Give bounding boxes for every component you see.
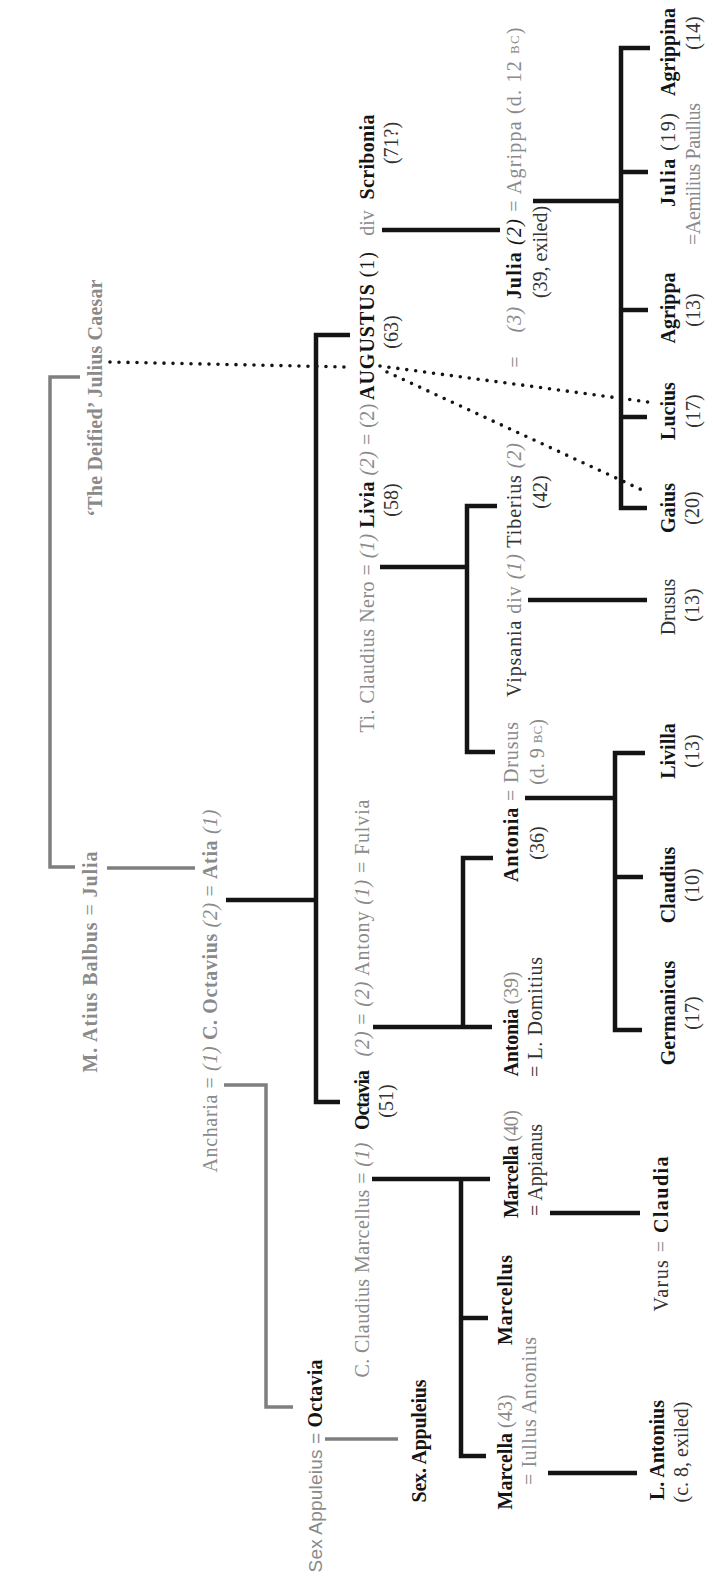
drusus-elder-death: (d. 9 BC) bbox=[526, 719, 549, 785]
antonia-minor-name: Antonia bbox=[500, 808, 522, 882]
death-note: (d. 9 bbox=[526, 748, 549, 785]
julia-younger-label: Julia (19) bbox=[657, 113, 680, 207]
appuleius-octavia-marriage: Sex Appuleius = Octavia bbox=[304, 1360, 326, 1573]
caesar-julia-sibling-bracket bbox=[50, 377, 80, 867]
marriage-order: (2) bbox=[356, 404, 379, 428]
drusus-younger-age: (13) bbox=[681, 588, 704, 621]
marriage-order: (2) bbox=[503, 219, 526, 245]
marriage-symbol: = bbox=[356, 564, 378, 575]
julia-note: (39, exiled) bbox=[529, 206, 552, 298]
gaius-name: Gaius bbox=[657, 483, 679, 533]
octavius-ancharia-to-octavia-elder-line bbox=[224, 1085, 293, 1407]
marriage-order: (2) bbox=[351, 1031, 374, 1056]
marcella-minor-spouse: = Iullus Antonius bbox=[518, 1337, 540, 1485]
octavius-marriages: Ancharia = (1) C. Octavius (2) = Atia (1… bbox=[199, 809, 222, 1172]
scribonia-age: (71?) bbox=[380, 122, 403, 164]
augustus-name: AUGUSTUS bbox=[356, 284, 378, 400]
livia-children-bracket bbox=[467, 506, 497, 752]
adoption-lines bbox=[110, 362, 648, 490]
antonia-major-name: Antonia bbox=[500, 1009, 522, 1077]
antonia-drusus-marriage: Antonia = Drusus bbox=[500, 722, 522, 882]
marriage-symbol: = bbox=[199, 1077, 221, 1088]
marriage-symbol: = bbox=[351, 1013, 373, 1024]
l-antonius-note: (c. 8, exiled) bbox=[670, 1401, 693, 1502]
atia-name: Atia bbox=[199, 840, 221, 879]
drusus-younger-name: Drusus bbox=[657, 578, 679, 635]
agrippa-postumus-name: Agrippa bbox=[657, 272, 680, 343]
antony-children-bracket bbox=[463, 858, 493, 1027]
marcella-major-name: Marcella bbox=[500, 1146, 522, 1218]
tiberius-age: (42) bbox=[529, 475, 552, 508]
antonia-minor-children-bracket bbox=[615, 753, 645, 1030]
tiberius-name: Tiberius bbox=[503, 475, 525, 548]
germanicus-age: (17) bbox=[681, 996, 704, 1029]
marcella-major-label: Marcella (40) bbox=[500, 1110, 523, 1218]
julia-younger-spouse: =Aemilius Paullus bbox=[682, 103, 704, 245]
augustus-octavia-sibling-bracket bbox=[316, 335, 350, 1102]
caesar-to-augustus-adoption-line bbox=[110, 362, 347, 367]
agrippina-name: Agrippina bbox=[657, 8, 680, 96]
augustus-to-lucius-adoption-line bbox=[380, 366, 648, 402]
julia-younger-name: Julia bbox=[657, 159, 679, 207]
antonia-major-spouse: = L. Domitius bbox=[524, 957, 546, 1077]
antonia-major-label: Antonia (39) bbox=[500, 972, 523, 1077]
antonia-minor-age: (36) bbox=[526, 826, 549, 859]
julia-children-bracket bbox=[621, 48, 650, 508]
tiberius-julia-marriage-symbol: = bbox=[504, 356, 526, 367]
julia-name: Julia bbox=[503, 252, 525, 299]
antonia-major-age: (39) bbox=[500, 972, 523, 1005]
marriage-order: (1) bbox=[199, 809, 222, 834]
era-label: BC bbox=[530, 726, 545, 743]
varus-name: Varus bbox=[650, 1260, 672, 1312]
gray-connectors bbox=[50, 377, 398, 1439]
augustus-label: AUGUSTUS (1) bbox=[356, 252, 379, 400]
paren-close: ) bbox=[526, 719, 549, 726]
marcella-major-spouse: = Appianus bbox=[524, 1124, 547, 1216]
marriage-order: (1) bbox=[351, 1142, 374, 1167]
livia-age: (58) bbox=[380, 483, 403, 516]
scribonia-name: Scribonia bbox=[356, 115, 378, 200]
marriage-symbol: = bbox=[79, 904, 101, 915]
vipsania-name: Vipsania bbox=[503, 620, 526, 697]
agrippina-age: (14) bbox=[682, 16, 705, 49]
livia-name: Livia bbox=[356, 481, 378, 527]
antony-name: Antony bbox=[351, 912, 374, 976]
julia-agrippa-marriage: (3) Julia (2) = Agrippa (d. 12 BC) bbox=[503, 28, 526, 333]
drusus-elder-name: Drusus bbox=[500, 722, 522, 783]
antony-fulvia-marriages: (2) = (2) Antony (1) = Fulvia bbox=[351, 799, 374, 1056]
l-antonius-name: L. Antonius bbox=[646, 1400, 668, 1500]
c-claudius-marcellus-name: C. Claudius Marcellus bbox=[351, 1189, 373, 1377]
lucius-age: (17) bbox=[682, 394, 705, 427]
marriage-symbol: = bbox=[500, 790, 522, 801]
octavia-age: (51) bbox=[375, 1084, 398, 1117]
marriage-order: (1) bbox=[199, 1046, 222, 1071]
balbus-name: M. Atius Balbus bbox=[79, 922, 101, 1072]
julia-elder-name: Julia bbox=[79, 852, 101, 898]
family-tree-diagram: ‘The Deified’ Julius Caesar M. Atius Bal… bbox=[0, 0, 713, 1578]
germanicus-name: Germanicus bbox=[657, 961, 679, 1066]
divorce-label: div bbox=[503, 586, 525, 613]
marriage-symbol: = bbox=[503, 200, 525, 211]
livilla-name: Livilla bbox=[657, 723, 679, 779]
balbus-julia-marriage: M. Atius Balbus = Julia bbox=[79, 852, 101, 1073]
marriage-symbol: = bbox=[356, 434, 378, 445]
julia-younger-age: (19) bbox=[657, 113, 680, 151]
marriage-symbol: = bbox=[305, 1433, 326, 1444]
marcellus-octavia-marriage: C. Claudius Marcellus = (1) bbox=[351, 1142, 374, 1377]
marcella-major-age: (40) bbox=[500, 1110, 523, 1142]
marcellus-name: Marcellus bbox=[494, 1255, 516, 1345]
marriage-order: (1) bbox=[356, 533, 379, 558]
paren-close: ) bbox=[503, 28, 526, 35]
julius-caesar-name: ‘The Deified’ Julius Caesar bbox=[84, 279, 106, 516]
julius-caesar-label: ‘The Deified’ Julius Caesar bbox=[84, 279, 106, 516]
claudius-age: (10) bbox=[681, 868, 704, 901]
marcella-minor-age: (43) bbox=[494, 1395, 517, 1428]
gaius-age: (20) bbox=[681, 491, 704, 524]
agrippa-death: (d. 12 bbox=[503, 61, 526, 114]
marriage-symbol: = bbox=[351, 862, 373, 873]
tiberius-marriages: Vipsania div (1) Tiberius (2) bbox=[503, 443, 526, 697]
ti-claudius-nero-name: Ti. Claudius Nero bbox=[356, 581, 378, 732]
octavia-name: Octavia bbox=[351, 1070, 373, 1130]
fulvia-name: Fulvia bbox=[351, 799, 373, 855]
divorce-label: div bbox=[356, 210, 378, 236]
